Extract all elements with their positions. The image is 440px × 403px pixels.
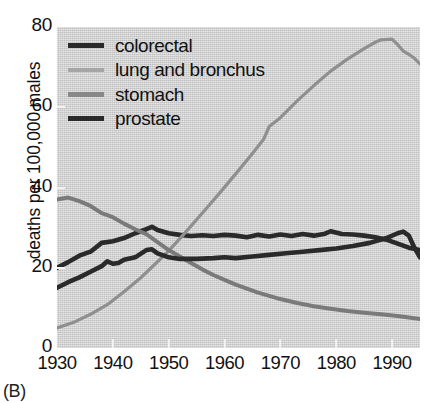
x-tick-label: 1940 [93,352,132,374]
legend-swatch-icon [68,68,104,72]
legend-swatch-icon [68,92,104,97]
y-tick-mark [57,187,65,189]
x-tick-label: 1990 [372,352,411,374]
x-tick-mark [335,339,337,348]
y-tick-label: 60 [6,94,52,116]
x-tick-mark [279,339,281,348]
legend-label: lung and bronchus [115,60,265,79]
y-tick-label: 40 [6,175,52,197]
y-tick-mark [57,106,65,108]
x-tick-label: 1950 [149,352,188,374]
legend-item-prostate: prostate [68,107,265,132]
x-tick-label: 1930 [37,352,76,374]
panel-label: (B) [3,381,26,402]
legend-swatch-icon [68,43,104,48]
legend-item-colorectal: colorectal [68,33,265,58]
chart-legend: colorectallung and bronchusstomachprosta… [68,33,265,131]
legend-label: colorectal [115,36,192,55]
y-tick-label: 80 [6,14,52,36]
legend-label: stomach [115,85,184,104]
legend-item-lung-and-bronchus: lung and bronchus [68,58,265,83]
y-axis-tick-labels: 020406080 [0,0,52,403]
x-axis-tick-labels: 1930194019501960197019801990 [0,352,440,382]
x-tick-mark [224,339,226,348]
x-tick-label: 1960 [205,352,244,374]
x-tick-mark [168,339,170,348]
legend-item-stomach: stomach [68,82,265,107]
legend-swatch-icon [68,116,104,121]
legend-label: prostate [115,109,180,128]
figure-panel-b: deaths per 100,000 males 020406080 19301… [0,0,440,403]
y-tick-label: 20 [6,255,52,277]
x-tick-mark [112,339,114,348]
x-tick-label: 1970 [261,352,300,374]
y-tick-mark [57,267,65,269]
x-tick-mark [391,339,393,348]
x-tick-label: 1980 [317,352,356,374]
